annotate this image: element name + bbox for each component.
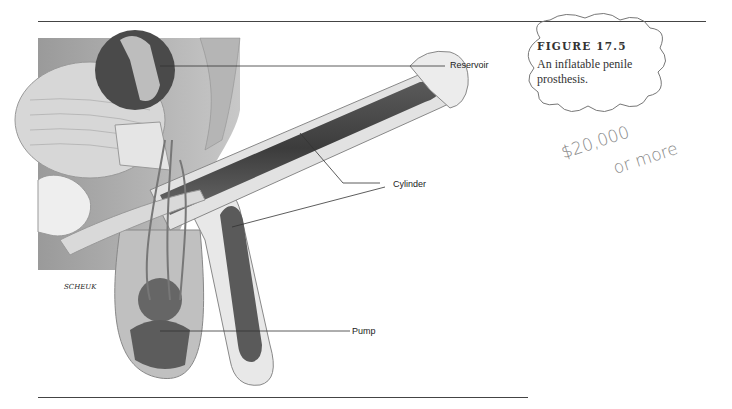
cylinder-leader-lower xyxy=(232,187,385,227)
figure-number: FIGURE 17.5 xyxy=(537,40,627,52)
reservoir-label: Reservoir xyxy=(450,60,489,70)
artist-signature: SCHEUK xyxy=(64,283,97,291)
figure-caption: An inflatable penile prosthesis. xyxy=(537,57,667,87)
cylinder-label: Cylinder xyxy=(393,179,426,189)
pump-label: Pump xyxy=(352,326,376,336)
